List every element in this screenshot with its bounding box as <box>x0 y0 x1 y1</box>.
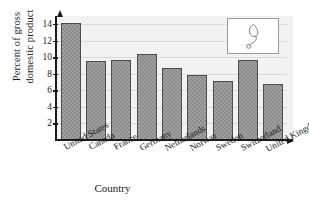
gridline <box>56 57 287 58</box>
y-axis-arrow-icon <box>57 10 63 17</box>
bar-chart-figure: Percent of gross domestic product 246810… <box>0 0 309 204</box>
y-axis-tick-label: 6 <box>47 85 52 95</box>
y-axis-tick-label: 8 <box>47 69 52 79</box>
y-axis-tick-label: 4 <box>47 102 52 112</box>
bar <box>137 54 157 140</box>
bar <box>61 23 81 140</box>
x-axis-title: Country <box>0 182 309 194</box>
stethoscope-icon <box>228 19 278 53</box>
y-axis-title: Percent of gross domestic product <box>11 0 36 112</box>
y-axis-tick-label: 14 <box>43 19 53 29</box>
bar <box>213 81 233 140</box>
x-axis-title-text: Country <box>94 182 130 194</box>
y-axis-tick-label: 12 <box>43 36 53 46</box>
bar <box>111 60 131 140</box>
bar <box>238 60 258 140</box>
y-axis-tick-label: 2 <box>47 118 52 128</box>
y-axis-tick-label: 10 <box>43 52 53 62</box>
y-axis-title-line-1: Percent of gross <box>11 0 24 112</box>
y-axis-title-line-2: domestic product <box>23 0 36 112</box>
stethoscope-inset-box <box>227 18 279 54</box>
y-axis-line <box>55 16 57 141</box>
